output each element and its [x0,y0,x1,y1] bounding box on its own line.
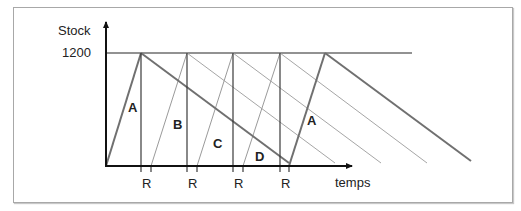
reorder-label: R [281,176,290,191]
thick-descending-lines [141,53,471,163]
x-axis-label: temps [335,175,371,190]
reorder-label: R [234,176,243,191]
region-label-a: A [128,100,138,115]
stock-diagram: Stock 1200 temps R R R R A B C D A [0,0,521,211]
y-level-label: 1200 [62,45,91,60]
region-label-c: C [213,136,223,151]
region-label-a2: A [307,113,317,128]
region-label-b: B [173,117,182,132]
region-label-d: D [255,149,264,164]
y-axis-label: Stock [58,23,91,38]
reorder-label: R [142,176,151,191]
reorder-label: R [188,176,197,191]
